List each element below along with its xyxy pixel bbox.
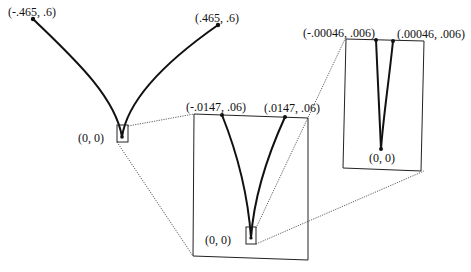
connector-line-overview-bottom <box>117 142 193 256</box>
right-endpoint-dot <box>283 115 287 119</box>
left-endpoint-label: (-.00046, .006) <box>303 26 375 40</box>
left-endpoint-label: (-.465, .6) <box>8 5 56 19</box>
origin-dot <box>249 236 252 239</box>
overview-panel: (-.465, .6) (.465, .6) (0, 0) <box>8 5 239 145</box>
cusp-zoom-diagram: (-.465, .6) (.465, .6) (0, 0) (-.0147, .… <box>0 0 471 272</box>
left-branch-curve <box>33 19 122 137</box>
origin-label: (0, 0) <box>78 131 104 145</box>
zoom-2-panel: (-.00046, .006) (.00046, .006) (0, 0) <box>303 26 465 171</box>
origin-label: (0, 0) <box>205 233 231 247</box>
origin-dot <box>120 135 124 139</box>
connector-line-zoom1-bottom <box>256 171 424 244</box>
right-endpoint-label: (.465, .6) <box>195 11 239 25</box>
zoom-1-panel: (-.0147, .06) (.0147, .06) (0, 0) <box>186 100 320 260</box>
right-endpoint-label: (.0147, .06) <box>264 101 320 115</box>
right-endpoint-dot <box>391 39 395 43</box>
origin-label: (0, 0) <box>369 151 395 165</box>
left-branch-curve <box>222 115 251 238</box>
connector-line-zoom1-top <box>256 39 345 228</box>
left-endpoint-label: (-.0147, .06) <box>186 100 246 114</box>
connector-line-overview-top <box>128 114 194 126</box>
right-branch-curve <box>122 25 218 137</box>
left-branch-curve <box>376 40 381 149</box>
right-branch-curve <box>381 41 393 149</box>
right-endpoint-label: (.00046, .006) <box>397 27 465 41</box>
